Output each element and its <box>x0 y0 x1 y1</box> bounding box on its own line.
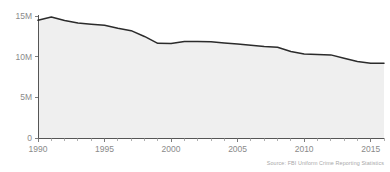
area-fill-group <box>38 17 384 138</box>
x-axis: 199019952000200520102015 <box>29 138 384 154</box>
x-tick-label-2: 2000 <box>162 144 181 154</box>
crime-statistics-chart: 05M10M15M 199019952000200520102015 Sourc… <box>0 0 390 172</box>
series-area-total-crimes <box>38 17 384 138</box>
y-tick-label-1: 5M <box>20 92 32 102</box>
y-tick-label-0: 0 <box>27 133 32 143</box>
x-tick-label-5: 2015 <box>361 144 380 154</box>
source-attribution: Source: FBI Uniform Crime Reporting Stat… <box>267 160 384 166</box>
chart-canvas: 05M10M15M 199019952000200520102015 Sourc… <box>0 0 390 172</box>
x-tick-label-0: 1990 <box>29 144 48 154</box>
x-tick-label-1: 1995 <box>95 144 114 154</box>
y-tick-label-2: 10M <box>15 52 32 62</box>
x-tick-label-3: 2005 <box>228 144 247 154</box>
y-tick-label-3: 15M <box>15 11 32 21</box>
y-axis: 05M10M15M <box>15 11 38 143</box>
x-tick-label-4: 2010 <box>295 144 314 154</box>
